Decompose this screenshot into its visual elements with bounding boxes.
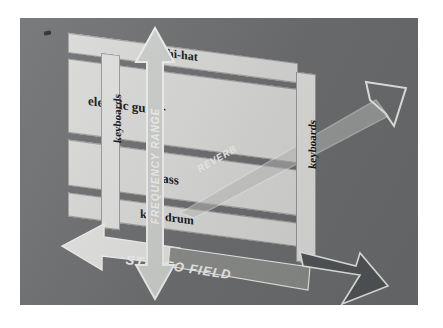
- frequency-range-arrow: FREQUENCY RANGE: [133, 26, 181, 301]
- figure-root: hi-hat electric guitar bass kick drum: [0, 0, 443, 328]
- stereo-field-arrow: STEREO FIELD: [60, 204, 390, 305]
- frequency-range-label: FREQUENCY RANGE: [150, 108, 161, 225]
- figure-panel: hi-hat electric guitar bass kick drum: [20, 18, 418, 305]
- stereo-arrow-head-right: [300, 252, 388, 304]
- dust-speck: [44, 30, 52, 35]
